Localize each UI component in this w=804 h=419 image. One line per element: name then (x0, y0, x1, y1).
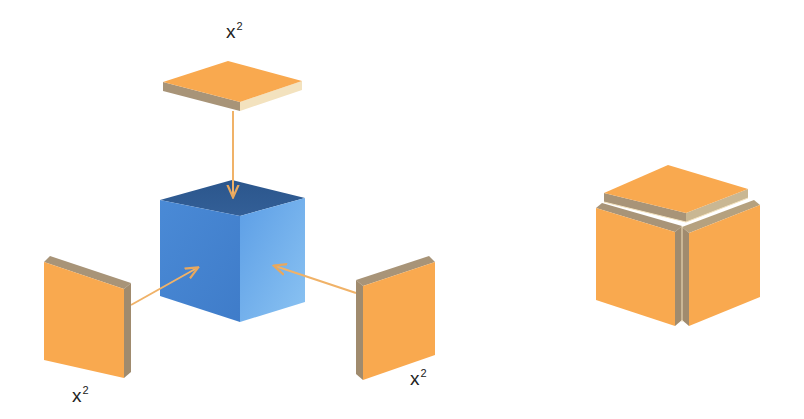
top-plate-label: x2 (226, 22, 243, 41)
assembled-left-side-edge (675, 226, 682, 326)
right-plate (356, 256, 435, 380)
right-plate-label: x2 (410, 369, 427, 388)
left-plate-side-edge (124, 283, 131, 378)
top-plate (163, 61, 302, 111)
cube-left-face (160, 200, 240, 322)
left-plate (44, 256, 131, 378)
label-exponent: 2 (421, 367, 427, 379)
assembled-right-side-edge (682, 227, 689, 326)
label-base: x (72, 385, 82, 406)
label-exponent: 2 (237, 20, 243, 32)
label-exponent: 2 (83, 384, 89, 396)
blue-cube (160, 180, 305, 322)
cube-plates-diagram (0, 0, 804, 419)
assembled-cube (596, 165, 760, 326)
label-base: x (410, 368, 420, 389)
right-plate-side-edge (356, 280, 363, 380)
label-base: x (226, 21, 236, 42)
left-plate-label: x2 (72, 386, 89, 405)
cube-right-face (240, 198, 305, 322)
